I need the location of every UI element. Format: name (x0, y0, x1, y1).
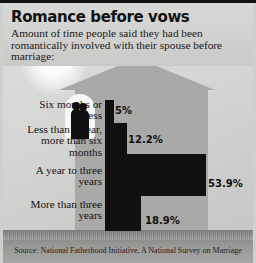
source-band: Source: National Fatherhood Initiative, … (3, 240, 253, 263)
bar-less-than-a-year (105, 123, 127, 154)
bar-six-months-or-less (105, 100, 114, 123)
value-label-more-than-three-years: 18.9% (145, 215, 180, 226)
infographic-romance-before-vows: Six months or less Less than a year, mor… (0, 0, 256, 263)
value-label-six-months: 5% (115, 105, 132, 116)
category-label-a-year-to-three-years: A year to three years (24, 165, 102, 188)
page-subtitle: Amount of time people said they had been… (11, 28, 243, 63)
source-text: Source: National Fatherhood Initiative, … (3, 246, 253, 255)
bar-more-than-three-years (105, 196, 141, 231)
category-label-more-than-three-years: More than three years (28, 199, 102, 222)
category-label-less-than-a-year: Less than a year, more than six months (12, 124, 102, 158)
value-label-a-year-to-three-years: 53.9% (208, 178, 243, 189)
header-block: Romance before vows Amount of time peopl… (3, 4, 253, 66)
page-title: Romance before vows (11, 8, 189, 26)
category-label-six-months: Six months or less (20, 99, 102, 122)
bar-a-year-to-three-years (105, 154, 206, 196)
value-label-less-than-a-year: 12.2% (128, 134, 163, 145)
